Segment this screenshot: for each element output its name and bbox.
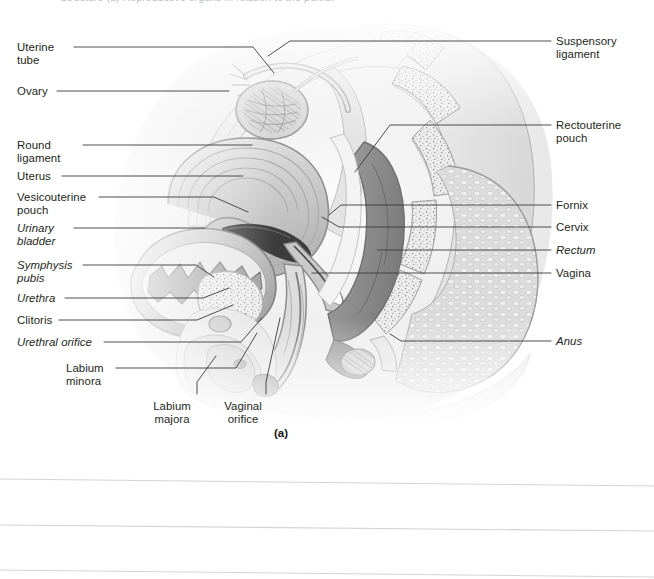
label-vesicouterine-pouch: Vesicouterine pouch [17, 191, 86, 218]
label-round-ligament: Round ligament [17, 139, 60, 166]
label-uterine-tube: Uterine tube [17, 41, 54, 68]
label-suspensory-ligament: Suspensory ligament [556, 35, 617, 62]
label-urinary-bladder: Urinary bladder [17, 222, 55, 249]
anatomical-illustration [96, 14, 566, 426]
rule-3 [0, 570, 654, 577]
label-anus: Anus [556, 335, 582, 348]
label-vagina: Vagina [556, 267, 591, 280]
label-ovary: Ovary [17, 85, 48, 98]
label-rectouterine-pouch: Rectouterine pouch [556, 119, 621, 146]
label-rectum: Rectum [556, 244, 596, 257]
panel-label: (a) [274, 427, 288, 439]
label-fornix: Fornix [556, 199, 588, 212]
label-labium-majora: Labium majora [153, 400, 191, 427]
label-clitoris: Clitoris [17, 314, 52, 327]
label-cervix: Cervix [556, 221, 589, 234]
rule-1 [0, 479, 654, 486]
label-labium-minora: Labium minora [66, 362, 104, 389]
label-uterus: Uterus [17, 170, 51, 183]
label-urethra: Urethra [17, 292, 55, 305]
label-symphysis-pubis: Symphysis pubis [17, 259, 73, 286]
label-urethral-orifice: Urethral orifice [17, 336, 92, 349]
figure-caption-cropped: Structure (a) Reproductive organs in rel… [0, 0, 654, 11]
figure-page: Structure (a) Reproductive organs in rel… [0, 0, 654, 579]
label-vaginal-orifice: Vaginal orifice [224, 400, 262, 427]
rule-2 [0, 525, 654, 531]
figure-caption-text: Structure (a) Reproductive organs in rel… [60, 0, 334, 3]
